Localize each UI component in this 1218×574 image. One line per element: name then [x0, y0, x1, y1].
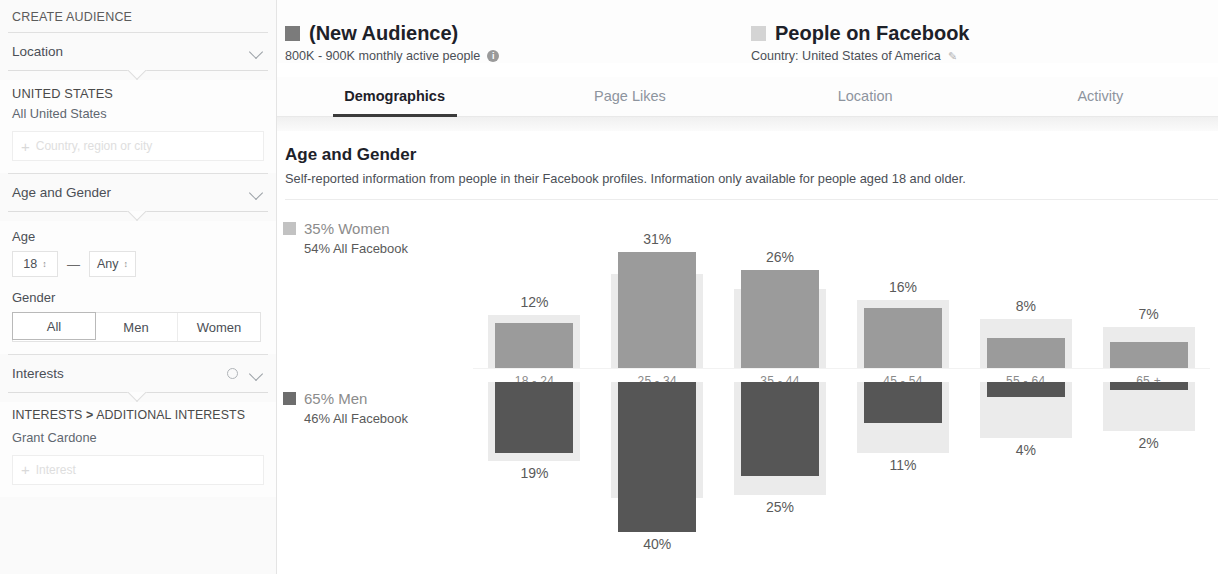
breadcrumb-root: INTERESTS [12, 408, 82, 422]
sidebar-section-age-gender[interactable]: Age and Gender [0, 174, 276, 211]
audience-bar-men [987, 382, 1065, 397]
edit-pencil-icon[interactable]: ✎ [948, 50, 957, 63]
age-gender-section: Age and Gender Self-reported information… [277, 131, 1218, 200]
audience-insights-page: CREATE AUDIENCE Location UNITED STATES A… [0, 0, 1218, 574]
location-add-input[interactable]: + Country, region or city [12, 131, 264, 161]
chart-group[interactable]: 26%35 - 4425% [719, 204, 842, 532]
chart-group[interactable]: 7%65 +2% [1087, 204, 1210, 532]
comparison-summary: People on Facebook Country: United State… [743, 22, 969, 63]
people-square-icon [751, 26, 766, 41]
age-min-value: 18 [23, 257, 37, 271]
sidebar-section-location[interactable]: Location [0, 33, 276, 70]
audience-header: (New Audience) 800K - 900K monthly activ… [277, 0, 1218, 63]
comparison-country: Country: United States of America [751, 49, 941, 63]
sidebar-section-interests[interactable]: Interests [0, 355, 276, 392]
create-audience-sidebar: CREATE AUDIENCE Location UNITED STATES A… [0, 0, 277, 574]
bar-value-label-women: 7% [1087, 306, 1210, 322]
audience-title-row: (New Audience) [285, 22, 743, 45]
bar-value-label-men: 4% [964, 442, 1087, 458]
audience-title: (New Audience) [309, 22, 458, 45]
tab-page-likes[interactable]: Page Likes [512, 77, 747, 116]
age-range-dash: — [67, 257, 80, 272]
breadcrumb-separator: > [86, 408, 93, 422]
legend-women: 35% Women 54% All Facebook [283, 220, 473, 256]
chart-group[interactable]: 16%45 - 5411% [842, 204, 965, 532]
tab-demographics[interactable]: Demographics [277, 77, 512, 116]
bar-value-label-women: 12% [473, 294, 596, 310]
audience-bar-men [741, 382, 819, 476]
plus-icon: + [21, 139, 30, 154]
location-country-value: All United States [12, 106, 264, 121]
age-max-value: Any [97, 257, 119, 271]
interests-breadcrumb: INTERESTS > ADDITIONAL INTERESTS [12, 408, 264, 424]
audience-bar-men [1110, 382, 1188, 390]
age-max-select[interactable]: Any ↕ [89, 251, 136, 277]
interests-panel: INTERESTS > ADDITIONAL INTERESTS Grant C… [0, 402, 276, 497]
sidebar-section-location-label: Location [12, 44, 63, 59]
gender-option-all[interactable]: All [12, 312, 96, 340]
interests-actions [227, 368, 264, 379]
section-notch [0, 392, 276, 402]
legend-men-share: 65% Men [304, 390, 367, 407]
notch-arrow [127, 392, 149, 402]
gear-icon[interactable] [227, 368, 238, 379]
legend-men-row: 65% Men [283, 390, 473, 407]
sidebar-title: CREATE AUDIENCE [0, 0, 276, 32]
chevron-down-icon[interactable] [250, 369, 264, 378]
audience-bar-women [618, 252, 696, 368]
sidebar-section-age-gender-label: Age and Gender [12, 185, 111, 200]
audience-bar-women [987, 338, 1065, 368]
age-gender-panel: Age 18 ↕ — Any ↕ Gender All Men Women [0, 221, 276, 354]
demographics-tabs: Demographics Page Likes Location Activit… [277, 77, 1218, 117]
divider [285, 199, 1218, 200]
age-min-select[interactable]: 18 ↕ [12, 251, 58, 277]
audience-bar-men [618, 382, 696, 532]
legend-women-row: 35% Women [283, 220, 473, 237]
tab-location[interactable]: Location [748, 77, 983, 116]
chart-group[interactable]: 8%55 - 644% [964, 204, 1087, 532]
info-icon[interactable]: i [487, 50, 499, 62]
gender-toggle-group: All Men Women [12, 312, 261, 342]
audience-reach: 800K - 900K monthly active people [285, 49, 480, 63]
chevron-down-icon[interactable] [250, 188, 264, 197]
bar-value-label-women: 31% [596, 231, 719, 247]
breadcrumb-leaf: ADDITIONAL INTERESTS [96, 408, 245, 422]
bar-value-label-men: 19% [473, 465, 596, 481]
main-panel: (New Audience) 800K - 900K monthly activ… [277, 0, 1218, 574]
interest-add-placeholder: Interest [36, 463, 76, 477]
audience-bar-women [1110, 342, 1188, 368]
audience-bar-women [741, 270, 819, 368]
stepper-icon: ↕ [42, 260, 47, 269]
section-notch [0, 211, 276, 221]
chart-group[interactable]: 31%25 - 3440% [596, 204, 719, 532]
chevron-down-icon[interactable] [250, 47, 264, 56]
stepper-icon: ↕ [124, 260, 129, 269]
gender-option-men[interactable]: Men [95, 313, 178, 341]
tab-activity[interactable]: Activity [983, 77, 1218, 116]
chart-group[interactable]: 12%18 - 2419% [473, 204, 596, 532]
audience-bar-men [495, 382, 573, 453]
audience-subtitle-row: 800K - 900K monthly active people i [285, 49, 743, 63]
comparison-title-row: People on Facebook [751, 22, 969, 45]
comparison-title: People on Facebook [775, 22, 969, 45]
bar-value-label-men: 40% [596, 536, 719, 552]
legend-swatch-men-icon [283, 392, 296, 405]
age-range-row: 18 ↕ — Any ↕ [12, 251, 264, 277]
gender-option-women[interactable]: Women [178, 313, 260, 341]
sidebar-section-interests-label: Interests [12, 366, 64, 381]
legend-women-share: 35% Women [304, 220, 390, 237]
gender-label: Gender [12, 290, 264, 305]
audience-bar-men [864, 382, 942, 423]
legend-women-benchmark: 54% All Facebook [304, 241, 473, 256]
interest-list-item[interactable]: Grant Cardone [12, 430, 264, 445]
interest-add-input[interactable]: + Interest [12, 455, 264, 485]
bar-value-label-men: 11% [842, 457, 965, 473]
audience-square-icon [285, 26, 300, 41]
bar-value-label-women: 8% [964, 298, 1087, 314]
audience-bar-women [495, 323, 573, 368]
bar-value-label-women: 26% [719, 249, 842, 265]
panel-shadow [277, 117, 1218, 131]
legend-men: 65% Men 46% All Facebook [283, 390, 473, 426]
age-label: Age [12, 229, 264, 244]
bar-value-label-women: 16% [842, 279, 965, 295]
